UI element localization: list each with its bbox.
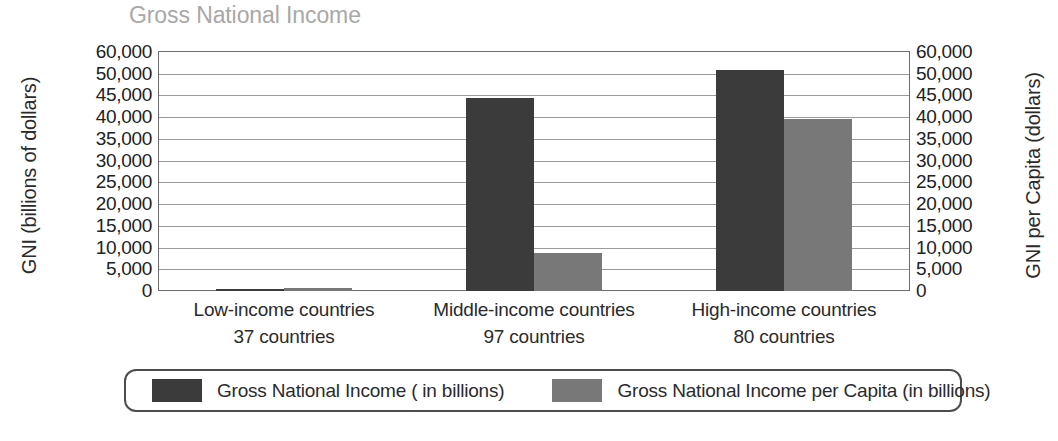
page-edge xyxy=(0,435,1058,441)
legend-swatch xyxy=(552,379,602,402)
axis-tick-label: 60,000 xyxy=(42,42,152,61)
axis-tick-label: 45,000 xyxy=(42,85,152,104)
legend-entry[interactable]: Gross National Income per Capita (in bil… xyxy=(552,379,990,402)
axis-tick-label: 10,000 xyxy=(42,237,152,256)
axis-tick-label: 35,000 xyxy=(42,128,152,147)
category-name: High-income countries xyxy=(614,297,954,324)
bar xyxy=(216,289,284,291)
legend-entry[interactable]: Gross National Income ( in billions) xyxy=(152,379,504,402)
bar xyxy=(466,98,534,291)
y-axis-left-title: GNI (billions of dollars) xyxy=(18,51,41,301)
category-count: 80 countries xyxy=(614,324,954,351)
axis-tick-label: 10,000 xyxy=(916,237,1026,256)
axis-tick-label: 20,000 xyxy=(42,194,152,213)
legend-label: Gross National Income ( in billions) xyxy=(217,380,504,402)
chart-figure: Gross National Income GNI (billions of d… xyxy=(0,0,1058,441)
axis-tick-label: 50,000 xyxy=(42,63,152,82)
axis-tick-label: 15,000 xyxy=(42,215,152,234)
axis-tick-label: 40,000 xyxy=(42,107,152,126)
legend-label: Gross National Income per Capita (in bil… xyxy=(617,380,990,402)
bar xyxy=(534,253,602,291)
chart-title: Gross National Income xyxy=(129,2,361,29)
axis-tick-label: 60,000 xyxy=(916,42,1026,61)
axis-tick-label: 15,000 xyxy=(916,215,1026,234)
y-axis-left-ticks: 60,00050,00045,00040,00035,00030,00025,0… xyxy=(42,51,152,291)
axis-tick-label: 5,000 xyxy=(42,259,152,278)
legend-swatch xyxy=(152,379,202,402)
axis-tick-label: 30,000 xyxy=(42,150,152,169)
bar xyxy=(716,70,784,291)
axis-tick-label: 45,000 xyxy=(916,85,1026,104)
axis-tick-label: 25,000 xyxy=(42,172,152,191)
axis-tick-label: 30,000 xyxy=(916,150,1026,169)
legend: Gross National Income ( in billions)Gros… xyxy=(124,369,962,412)
bars-layer xyxy=(159,52,909,291)
axis-tick-label: 20,000 xyxy=(916,194,1026,213)
bar xyxy=(784,119,852,291)
bar xyxy=(284,288,352,291)
y-axis-right-ticks: 60,00050,00045,00040,00035,00030,00025,0… xyxy=(916,51,1026,291)
axis-tick-label: 35,000 xyxy=(916,128,1026,147)
axis-tick-label: 50,000 xyxy=(916,63,1026,82)
axis-tick-label: 5,000 xyxy=(916,259,1026,278)
category-label-group: High-income countries80 countries xyxy=(614,297,954,351)
axis-tick-label: 40,000 xyxy=(916,107,1026,126)
axis-tick-label: 25,000 xyxy=(916,172,1026,191)
